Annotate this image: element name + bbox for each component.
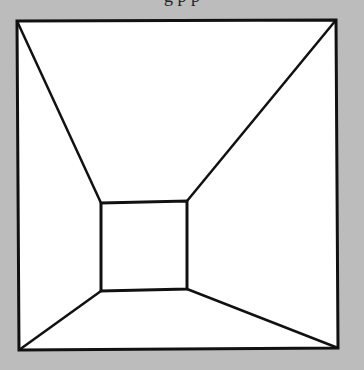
perspective-square-diagram — [0, 0, 364, 370]
outer-square — [17, 20, 338, 350]
